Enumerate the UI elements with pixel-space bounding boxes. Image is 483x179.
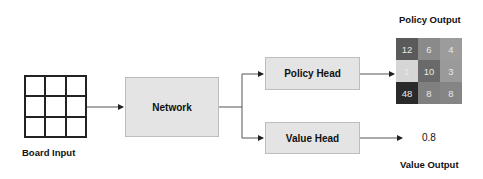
policy-cell: 12	[396, 38, 418, 60]
value-output-title: Value Output	[400, 159, 459, 170]
board-cell	[45, 76, 65, 96]
board-cell	[66, 76, 86, 96]
policy-cell: 8	[440, 82, 462, 104]
policy-cell: 8	[418, 82, 440, 104]
policy-output-grid: 12 6 4 1 10 3 48 8 8	[396, 38, 462, 104]
network-box: Network	[125, 77, 219, 137]
board-cell	[45, 117, 65, 137]
board-cell	[66, 96, 86, 116]
board-input-label: Board Input	[22, 147, 75, 158]
board-cell	[45, 96, 65, 116]
value-head-box: Value Head	[265, 122, 360, 154]
board-input-grid	[24, 75, 87, 138]
policy-head-box: Policy Head	[265, 57, 360, 90]
board-cell	[66, 117, 86, 137]
value-output-number: 0.8	[422, 132, 436, 143]
policy-cell: 6	[418, 38, 440, 60]
policy-cell: 4	[440, 38, 462, 60]
policy-cell: 10	[418, 60, 440, 82]
policy-output-title: Policy Output	[399, 14, 461, 25]
policy-cell: 48	[396, 82, 418, 104]
board-cell	[25, 117, 45, 137]
board-cell	[25, 96, 45, 116]
policy-cell: 3	[440, 60, 462, 82]
policy-cell: 1	[396, 60, 418, 82]
board-cell	[25, 76, 45, 96]
